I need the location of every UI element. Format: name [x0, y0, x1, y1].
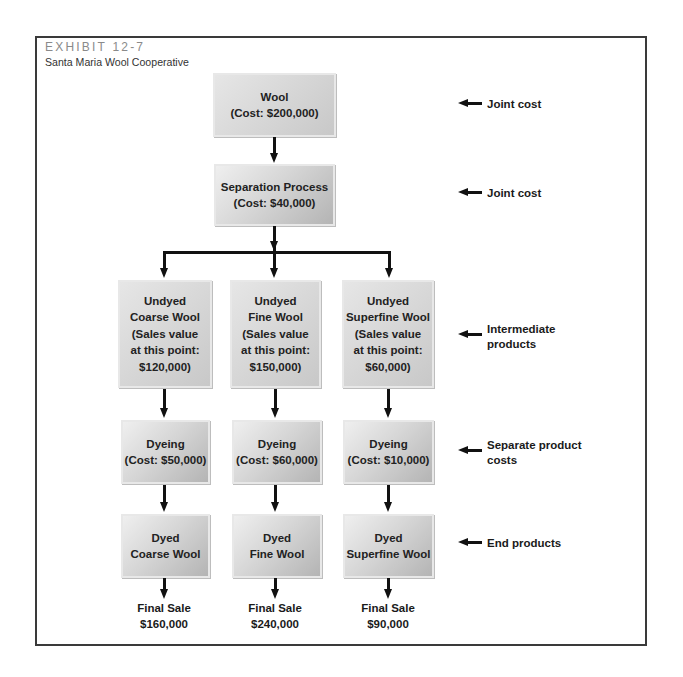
arrow-down-icon	[160, 268, 168, 278]
node-dyeing-fine: Dyeing (Cost: $60,000)	[232, 420, 322, 484]
arrow-down-icon	[270, 268, 278, 278]
node-line: Superfine Wool	[346, 309, 430, 326]
arrow-left-icon	[458, 97, 482, 109]
arrow-down-icon	[270, 241, 278, 251]
node-line: at this point:	[241, 342, 310, 359]
node-cost: (Cost: $10,000)	[348, 452, 430, 469]
node-cost: (Cost: $50,000)	[125, 452, 207, 469]
final-sale-label: Final Sale	[114, 600, 214, 616]
arrow-left-icon	[458, 186, 482, 198]
node-line: at this point:	[354, 342, 423, 359]
node-cost: (Cost: $40,000)	[234, 195, 316, 212]
node-line: $120,000)	[139, 359, 191, 376]
annotation-end-products: End products	[458, 536, 561, 551]
node-line: Undyed	[367, 293, 409, 310]
annotation-separate-product-costs: Separate product costs	[458, 438, 582, 468]
final-sale-value: $160,000	[114, 616, 214, 632]
node-dyeing-superfine: Dyeing (Cost: $10,000)	[343, 420, 434, 484]
node-undyed-superfine-wool: Undyed Superfine Wool (Sales value at th…	[342, 280, 434, 388]
final-sale-value: $240,000	[225, 616, 325, 632]
node-title: Dyeing	[146, 436, 184, 453]
annotation-text: Separate product	[487, 438, 582, 453]
node-subtitle: Coarse Wool	[130, 546, 200, 563]
arrow-down-icon	[160, 589, 168, 599]
final-sale-coarse: Final Sale $160,000	[114, 600, 214, 632]
node-title: Dyed	[374, 530, 402, 547]
node-undyed-fine-wool: Undyed Fine Wool (Sales value at this po…	[230, 280, 321, 388]
annotation-joint-cost-2: Joint cost	[458, 186, 541, 201]
node-dyed-superfine-wool: Dyed Superfine Wool	[343, 514, 434, 578]
annotation-joint-cost-1: Joint cost	[458, 97, 541, 112]
arrow-down-icon	[160, 502, 168, 512]
annotation-text: Joint cost	[487, 97, 541, 112]
arrow-down-icon	[160, 408, 168, 418]
connector-branch-line	[163, 251, 390, 254]
arrow-left-icon	[458, 328, 482, 340]
node-cost: (Cost: $200,000)	[230, 105, 318, 122]
node-line: (Sales value	[242, 326, 308, 343]
node-line: Coarse Wool	[130, 309, 200, 326]
node-cost: (Cost: $60,000)	[236, 452, 318, 469]
arrow-down-icon	[270, 153, 278, 163]
node-title: Wool	[261, 89, 289, 106]
node-dyed-fine-wool: Dyed Fine Wool	[232, 514, 322, 578]
annotation-text: products	[487, 337, 555, 352]
node-title: Separation Process	[221, 179, 328, 196]
arrow-down-icon	[384, 589, 392, 599]
arrow-left-icon	[458, 536, 482, 548]
arrow-down-icon	[271, 589, 279, 599]
exhibit-subtitle: Santa Maria Wool Cooperative	[45, 56, 189, 68]
node-title: Dyed	[263, 530, 291, 547]
arrow-down-icon	[384, 408, 392, 418]
exhibit-number: EXHIBIT 12-7	[45, 40, 145, 54]
final-sale-fine: Final Sale $240,000	[225, 600, 325, 632]
annotation-text: costs	[487, 453, 582, 468]
node-dyeing-coarse: Dyeing (Cost: $50,000)	[121, 420, 210, 484]
final-sale-label: Final Sale	[338, 600, 438, 616]
arrow-down-icon	[385, 268, 393, 278]
node-line: $60,000)	[365, 359, 410, 376]
node-title: Dyeing	[369, 436, 407, 453]
node-line: Undyed	[144, 293, 186, 310]
node-subtitle: Fine Wool	[250, 546, 305, 563]
node-undyed-coarse-wool: Undyed Coarse Wool (Sales value at this …	[118, 280, 212, 388]
arrow-down-icon	[271, 408, 279, 418]
annotation-text: Intermediate	[487, 322, 555, 337]
final-sale-superfine: Final Sale $90,000	[338, 600, 438, 632]
node-line: $150,000)	[250, 359, 302, 376]
node-title: Dyed	[151, 530, 179, 547]
final-sale-label: Final Sale	[225, 600, 325, 616]
node-separation-process: Separation Process (Cost: $40,000)	[214, 164, 335, 226]
node-dyed-coarse-wool: Dyed Coarse Wool	[121, 514, 210, 578]
annotation-intermediate-products: Intermediate products	[458, 322, 555, 352]
node-line: (Sales value	[132, 326, 198, 343]
annotation-text: End products	[487, 536, 561, 551]
arrow-left-icon	[458, 444, 482, 456]
node-title: Dyeing	[258, 436, 296, 453]
final-sale-value: $90,000	[338, 616, 438, 632]
node-wool: Wool (Cost: $200,000)	[213, 73, 336, 137]
arrow-down-icon	[384, 502, 392, 512]
node-line: at this point:	[131, 342, 200, 359]
node-line: (Sales value	[355, 326, 421, 343]
node-line: Fine Wool	[248, 309, 303, 326]
annotation-text: Joint cost	[487, 186, 541, 201]
node-line: Undyed	[254, 293, 296, 310]
arrow-down-icon	[271, 502, 279, 512]
node-subtitle: Superfine Wool	[346, 546, 430, 563]
